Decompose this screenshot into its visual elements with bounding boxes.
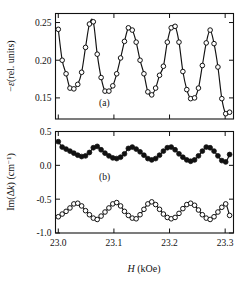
data-point — [177, 211, 182, 216]
data-point — [196, 208, 201, 213]
data-point — [212, 214, 217, 219]
data-point — [181, 206, 186, 211]
panel-a-ylabel: −ε(rel. units) — [5, 40, 17, 91]
data-point — [87, 212, 92, 217]
panel-b-ylabel: Im(Δk) (cm−1) — [5, 153, 18, 211]
data-point — [216, 153, 221, 158]
data-point — [227, 152, 232, 157]
panel-b-ytick-labels: 0.50.0-0.5-1.0 — [36, 127, 51, 239]
x-axis-tick-label: 23.2 — [161, 238, 178, 248]
data-point — [192, 158, 197, 163]
data-point — [83, 45, 88, 50]
data-point — [153, 86, 158, 91]
data-point — [223, 202, 228, 207]
data-point — [208, 28, 213, 33]
panel-b-ytick-label: 0.0 — [40, 161, 52, 171]
data-point — [212, 41, 217, 46]
data-point — [114, 200, 119, 205]
data-point — [142, 153, 147, 158]
x-axis-tick-label: 23.3 — [217, 238, 234, 248]
data-point — [153, 156, 158, 161]
data-point — [68, 206, 73, 211]
data-point — [107, 206, 112, 211]
data-point — [56, 139, 61, 144]
data-point — [122, 151, 127, 156]
data-point — [138, 58, 143, 63]
data-point — [204, 41, 209, 46]
svg-text:Im(Δk) (cm−1): Im(Δk) (cm−1) — [5, 153, 18, 211]
x-axis-tick-labels: 23.023.123.223.3 — [50, 238, 234, 248]
data-point — [227, 110, 232, 115]
data-point — [161, 64, 166, 69]
data-point — [91, 19, 96, 24]
data-point — [192, 203, 197, 208]
data-point — [196, 86, 201, 91]
data-point — [177, 40, 182, 45]
data-point — [87, 150, 92, 155]
panel-b-ylabel-pre: Im(Δ — [5, 189, 17, 210]
data-point — [118, 56, 123, 61]
panel-b-ytick-label: -0.5 — [36, 195, 51, 205]
data-point — [173, 147, 178, 152]
panel-b-markers-lower — [56, 200, 232, 222]
data-point — [142, 207, 147, 212]
x-axis-label: H (kOe) — [126, 263, 160, 275]
panel-a-ytick-label: 0.25 — [35, 18, 52, 28]
panel-b-ylabel-post: ) (cm — [5, 164, 17, 186]
data-point — [122, 39, 127, 44]
panel-a-ytick-label: 0.15 — [35, 93, 52, 103]
data-point — [79, 204, 84, 209]
panel-a-ylabel-rest: (rel. units) — [5, 40, 17, 82]
data-point — [184, 87, 189, 92]
data-point — [99, 214, 104, 219]
data-point — [196, 153, 201, 158]
data-point — [223, 160, 228, 165]
panel-a-ytick-label: 0.20 — [35, 56, 52, 66]
panel-b-ylabel-end: ) — [5, 153, 17, 156]
data-point — [157, 73, 162, 78]
data-point — [110, 84, 115, 89]
data-point — [216, 65, 221, 70]
data-point — [173, 215, 178, 220]
x-axis-label-unit: (kOe) — [135, 263, 161, 275]
data-point — [95, 52, 100, 57]
data-point — [227, 213, 232, 218]
data-point — [130, 28, 135, 33]
x-axis-tick-label: 23.0 — [50, 238, 67, 248]
figure-container: (a) 0.250.200.15 −ε(rel. units) (b) 0.50… — [0, 0, 249, 284]
data-point — [60, 58, 65, 63]
data-point — [192, 96, 197, 101]
panel-b: (b) — [56, 132, 234, 234]
data-point — [103, 210, 108, 215]
panel-b-ytick-label: 0.5 — [40, 127, 52, 137]
data-point — [173, 24, 178, 29]
data-point — [107, 89, 112, 94]
data-point — [118, 204, 123, 209]
data-point — [200, 149, 205, 154]
data-point — [220, 205, 225, 210]
data-point — [99, 75, 104, 80]
data-point — [56, 27, 61, 32]
panel-b-ytick-label: -1.0 — [36, 228, 51, 238]
data-point — [64, 71, 69, 76]
data-point — [134, 40, 139, 45]
data-point — [83, 208, 88, 213]
panel-b-markers-upper — [56, 139, 232, 164]
data-point — [216, 210, 221, 215]
data-point — [165, 40, 170, 45]
data-point — [220, 96, 225, 101]
data-point — [161, 212, 166, 217]
svg-text:−ε(rel. units): −ε(rel. units) — [5, 40, 17, 91]
data-point — [114, 71, 119, 76]
data-point — [64, 209, 69, 214]
panel-a-ytick-labels: 0.250.200.15 — [35, 18, 52, 103]
data-point — [181, 69, 186, 74]
data-point — [200, 63, 205, 68]
panel-a-label: (a) — [99, 98, 110, 109]
data-point — [212, 149, 217, 154]
panel-a: (a) — [56, 14, 234, 120]
data-point — [95, 217, 100, 222]
data-point — [157, 153, 162, 158]
data-point — [75, 82, 80, 87]
data-point — [142, 71, 147, 76]
